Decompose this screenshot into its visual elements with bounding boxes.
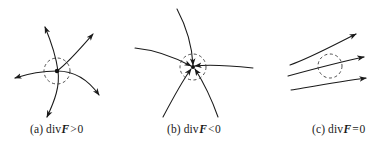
flow-line-a5 xyxy=(57,34,93,71)
caption-b-label: (b) xyxy=(167,123,181,135)
flow-line-a1 xyxy=(47,71,58,117)
caption-b-value: 0 xyxy=(215,123,221,135)
panel-b-graphic xyxy=(135,9,253,117)
flow-line-b5 xyxy=(195,69,218,117)
caption-c-value: 0 xyxy=(359,123,365,135)
flow-line-a2 xyxy=(45,27,58,71)
flow-line-b3 xyxy=(195,65,253,68)
caption-a-field-symbol: F xyxy=(61,123,70,135)
caption-a-label: (a) xyxy=(30,123,43,135)
flow-line-c3 xyxy=(291,78,366,90)
flow-line-b2 xyxy=(135,48,191,66)
caption-panel-c: (c) divF=0 xyxy=(312,124,365,136)
panel-c-region-circle xyxy=(318,54,342,78)
caption-b-operator: div xyxy=(184,123,199,135)
panel-c-flow-lines xyxy=(288,34,366,90)
panel-b-flow-lines xyxy=(135,9,253,117)
panel-b-center-point xyxy=(191,65,195,69)
caption-panel-b: (b) divF<0 xyxy=(167,124,221,136)
panel-c-graphic xyxy=(288,34,366,90)
flow-line-b4 xyxy=(163,69,191,117)
caption-panel-a: (a) divF>0 xyxy=(30,124,83,136)
caption-a-value: 0 xyxy=(77,123,83,135)
caption-b-relation: < xyxy=(207,123,215,135)
caption-c-operator: div xyxy=(328,123,343,135)
divergence-figure: (a) divF>0 (b) divF<0 (c) divF=0 xyxy=(0,0,380,151)
flow-line-a4 xyxy=(57,71,99,95)
flow-line-a3 xyxy=(15,71,57,78)
panel-a-graphic xyxy=(15,27,99,117)
flow-line-c1 xyxy=(290,34,356,65)
caption-a-operator: div xyxy=(46,123,61,135)
flow-line-c2 xyxy=(288,57,364,76)
caption-c-label: (c) xyxy=(312,123,325,135)
panel-a-center-point xyxy=(55,69,59,73)
caption-c-field-symbol: F xyxy=(343,123,352,135)
